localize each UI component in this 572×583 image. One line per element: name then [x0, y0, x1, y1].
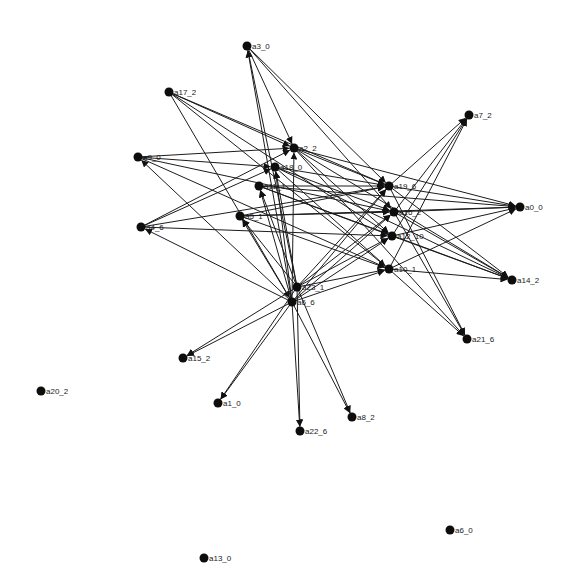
node-label: a11_1 [264, 182, 286, 191]
node-label: a17_2 [174, 88, 197, 97]
node-dot-icon[interactable] [508, 276, 517, 285]
node-dot-icon[interactable] [271, 163, 280, 172]
node-a5_1[interactable]: a5_1 [236, 212, 264, 222]
node-dot-icon[interactable] [255, 182, 264, 191]
node-label: a6_0 [455, 526, 473, 535]
node-a20_2[interactable]: a20_2 [37, 387, 69, 397]
edge-a17_2-to-a6_6 [169, 92, 290, 298]
edge-a6_6-to-a1_0 [221, 302, 292, 399]
edge-a19_6-to-a7_2 [389, 118, 466, 186]
node-dot-icon[interactable] [446, 526, 455, 535]
node-label: a10_1 [394, 265, 417, 274]
node-dot-icon[interactable] [214, 399, 223, 408]
node-dot-icon[interactable] [388, 232, 397, 241]
node-a9_0[interactable]: a9_0 [134, 153, 162, 163]
node-dot-icon[interactable] [390, 208, 399, 217]
node-label: a16_2 [399, 208, 422, 217]
edge-layer [138, 46, 516, 427]
node-a0_0[interactable]: a0_0 [516, 203, 544, 213]
edge-a23_1-to-a11_1 [261, 190, 297, 287]
node-dot-icon[interactable] [385, 265, 394, 274]
node-a15_2[interactable]: a15_2 [179, 354, 211, 364]
node-label: a13_0 [209, 554, 232, 563]
node-dot-icon[interactable] [348, 413, 357, 422]
node-label: a12_10 [397, 232, 424, 241]
node-a22_6[interactable]: a22_6 [296, 427, 328, 437]
edge-a6_6-to-a12_10 [292, 238, 388, 302]
node-dot-icon[interactable] [165, 88, 174, 97]
node-label: a0_0 [525, 203, 543, 212]
node-a11_1[interactable]: a11_1 [255, 182, 287, 192]
node-layer: a3_0a17_2a2_2a18_0a9_0a11_1a4_6a5_1a7_2a… [37, 42, 544, 564]
node-a14_2[interactable]: a14_2 [508, 276, 540, 286]
edge-a12_10-to-a7_2 [392, 119, 467, 236]
node-label: a7_2 [474, 111, 492, 120]
node-a4_6[interactable]: a4_6 [137, 223, 165, 233]
node-a19_6[interactable]: a19_6 [385, 182, 417, 192]
node-label: a20_2 [46, 387, 69, 396]
node-label: a5_1 [245, 212, 263, 221]
node-a21_6[interactable]: a21_6 [463, 335, 495, 345]
node-label: a21_6 [472, 335, 495, 344]
edge-a23_1-to-a15_2 [187, 287, 297, 356]
node-a16_2[interactable]: a16_2 [390, 208, 422, 218]
node-label: a4_6 [146, 223, 164, 232]
node-a13_0[interactable]: a13_0 [200, 554, 232, 564]
node-label: a6_6 [297, 298, 315, 307]
node-a7_2[interactable]: a7_2 [465, 111, 493, 121]
node-label: a22_6 [305, 427, 328, 436]
node-a23_1[interactable]: a23_1 [293, 283, 325, 293]
node-dot-icon[interactable] [236, 212, 245, 221]
node-label: a9_0 [143, 153, 161, 162]
node-dot-icon[interactable] [463, 335, 472, 344]
node-dot-icon[interactable] [243, 42, 252, 51]
node-dot-icon[interactable] [290, 144, 299, 153]
edge-a6_6-to-a11_1 [260, 190, 292, 302]
node-label: a2_2 [299, 144, 317, 153]
node-label: a3_0 [252, 42, 270, 51]
node-dot-icon[interactable] [137, 223, 146, 232]
node-dot-icon[interactable] [288, 298, 297, 307]
node-dot-icon[interactable] [293, 283, 302, 292]
node-a6_0[interactable]: a6_0 [446, 526, 474, 536]
node-dot-icon[interactable] [179, 354, 188, 363]
node-a12_10[interactable]: a12_10 [388, 232, 425, 242]
node-dot-icon[interactable] [385, 182, 394, 191]
node-label: a23_1 [302, 283, 325, 292]
node-a2_2[interactable]: a2_2 [290, 144, 318, 154]
node-dot-icon[interactable] [296, 427, 305, 436]
node-a6_6[interactable]: a6_6 [288, 298, 316, 308]
node-dot-icon[interactable] [465, 111, 474, 120]
node-a17_2[interactable]: a17_2 [165, 88, 197, 98]
edge-a6_6-to-a15_2 [187, 302, 292, 356]
node-dot-icon[interactable] [37, 387, 46, 396]
edge-a6_6-to-a8_2 [292, 302, 350, 413]
node-a18_0[interactable]: a18_0 [271, 163, 303, 173]
edge-a23_1-to-a5_1 [243, 220, 297, 287]
graph-canvas: a3_0a17_2a2_2a18_0a9_0a11_1a4_6a5_1a7_2a… [0, 0, 572, 583]
node-label: a1_0 [223, 399, 241, 408]
node-dot-icon[interactable] [516, 203, 525, 212]
edge-a3_0-to-a2_2 [247, 46, 292, 144]
edge-a23_1-to-a1_0 [221, 287, 297, 399]
node-a3_0[interactable]: a3_0 [243, 42, 271, 52]
node-a1_0[interactable]: a1_0 [214, 399, 242, 409]
node-label: a8_2 [357, 413, 375, 422]
node-label: a15_2 [188, 354, 211, 363]
edge-a23_1-to-a16_2 [297, 215, 390, 287]
node-a10_1[interactable]: a10_1 [385, 265, 417, 275]
node-dot-icon[interactable] [134, 153, 143, 162]
node-label: a14_2 [517, 276, 540, 285]
node-a8_2[interactable]: a8_2 [348, 413, 376, 423]
edge-a10_1-to-a7_2 [389, 119, 467, 269]
node-dot-icon[interactable] [200, 554, 209, 563]
node-label: a18_0 [280, 163, 303, 172]
node-label: a19_6 [394, 182, 417, 191]
